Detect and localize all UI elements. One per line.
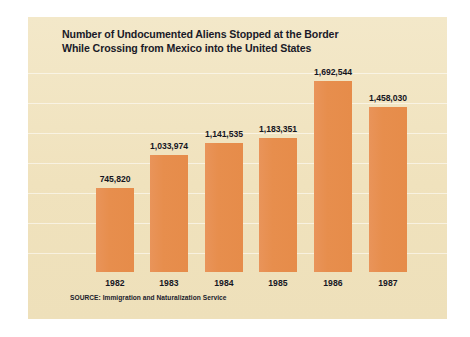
bar-label-1986: 1986 [323,278,343,288]
bar-1982[interactable] [96,188,134,272]
bar-value-1986: 1,692,544 [314,67,352,77]
bar-label-1983: 1983 [159,278,179,288]
bar-label-1982: 1982 [105,278,125,288]
chart-title-line-1: Number of Undocumented Aliens Stopped at… [62,28,422,42]
bar-1983[interactable] [150,155,188,272]
chart-title: Number of Undocumented Aliens Stopped at… [62,28,422,55]
bar-label-1985: 1985 [268,278,288,288]
bar-label-1987: 1987 [378,278,398,288]
bar-value-1987: 1,458,030 [369,93,407,103]
bar-1984[interactable] [205,143,243,272]
bar-value-1985: 1,183,351 [259,124,297,134]
chart-panel: 745,820 1982 1,033,974 1983 1,141,535 19… [28,17,447,319]
bar-1986[interactable] [314,81,352,272]
bar-1987[interactable] [369,107,407,272]
bar-value-1983: 1,033,974 [150,141,188,151]
gridline [28,103,447,104]
source-note: SOURCE: Immigration and Naturalization S… [70,294,227,301]
plot-area: 745,820 1982 1,033,974 1983 1,141,535 19… [28,17,447,319]
bar-value-1982: 745,820 [100,174,131,184]
chart-title-line-2: While Crossing from Mexico into the Unit… [62,42,422,56]
bar-1985[interactable] [259,138,297,272]
bar-value-1984: 1,141,535 [205,129,243,139]
bar-label-1984: 1984 [214,278,234,288]
chart-screenshot: 745,820 1982 1,033,974 1983 1,141,535 19… [0,0,470,337]
gridline [28,73,447,74]
